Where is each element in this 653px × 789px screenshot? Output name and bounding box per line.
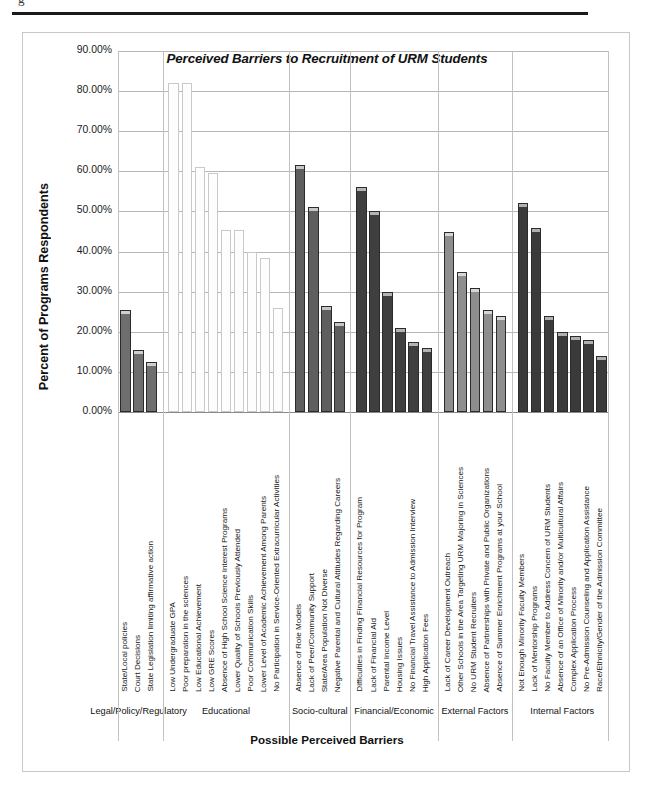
x-axis-category-label: No Participation in Service-Oriented Ext… — [273, 475, 281, 692]
y-axis-tick-label: 10.00% — [38, 365, 112, 376]
page-top-crop: g — [0, 0, 653, 12]
x-axis-category-label: Housing Issues — [396, 637, 404, 692]
x-axis-category-label: Absence of Summer Enrichment Programs at… — [496, 484, 504, 692]
x-axis-category-label: Lack of Financial Aid — [370, 618, 378, 692]
x-axis-category-label: Low Undergraduate GPA — [169, 602, 177, 692]
x-axis-category-label: Absence of Role Models — [295, 604, 303, 692]
y-axis-tick-label: 40.00% — [38, 245, 112, 256]
y-axis-tick-label: 20.00% — [38, 325, 112, 336]
x-axis-category-labels: State/Local policiesCourt DecisionsState… — [119, 414, 609, 692]
y-axis-tick-label: 80.00% — [38, 84, 112, 95]
x-axis-category-label: Poor Communication Skills — [247, 595, 255, 692]
x-axis-category-label: Lower Quality of Schools Previously Atte… — [234, 529, 242, 692]
x-axis-category-label: No URM Student Recruiters — [470, 592, 478, 692]
x-axis-category-label: Not Enough Minority Faculty Members — [518, 554, 526, 692]
x-axis-category-label: Absence of High School Science Interest … — [221, 508, 229, 692]
x-axis-category-label: Low GRE Scores — [208, 630, 216, 692]
x-axis-category-label: Absence of an Office of Minority and/or … — [557, 482, 565, 692]
y-axis-tick-label: 70.00% — [38, 124, 112, 135]
x-axis-category-label: Complex Application Process — [570, 587, 578, 692]
chart-container: Perceived Barriers to Recruitment of URM… — [22, 32, 630, 772]
y-axis-tick-label: 60.00% — [38, 164, 112, 175]
x-axis-category-label: Low Educational Achievement — [195, 584, 203, 692]
x-axis-category-label: Court Decisions — [134, 635, 142, 692]
x-axis-category-label: Lack of Career Development Outreach — [444, 553, 452, 692]
x-axis-category-label: State Legislation limiting affirmative a… — [147, 541, 155, 692]
x-axis-category-label: No Pre-Admission Counseling and Applicat… — [583, 486, 591, 692]
x-axis-category-label: State/Area Population Not Diverse — [321, 569, 329, 692]
y-axis-tick-label: 30.00% — [38, 285, 112, 296]
x-axis-category-label: Other Schools in the Area Targeting URM … — [457, 467, 465, 692]
x-axis-category-label: State/Local policies — [121, 622, 129, 692]
x-axis-category-label: No Financial Travel Assistance to Admiss… — [409, 499, 417, 692]
x-axis-category-label: No Faculty Member to Address Concern of … — [544, 484, 552, 692]
x-axis-category-label: Negative Parental and Cultural Attitudes… — [334, 478, 342, 692]
x-axis-category-label: Absence of Partnerships with Private and… — [483, 468, 491, 693]
x-axis-category-label: Poor preparation in the sciences — [182, 576, 190, 692]
y-axis-tick-label: 50.00% — [38, 204, 112, 215]
x-axis-category-label: Lack of Peer/Community Support — [308, 573, 316, 692]
x-axis-category-label: Race/Ethnicity/Gender of the Admission C… — [596, 508, 604, 692]
x-axis-category-label: Parental Income Level — [383, 611, 391, 692]
x-axis-category-label: High Application Fees — [422, 614, 430, 692]
y-axis-tick-label: 90.00% — [38, 44, 112, 55]
y-axis-tick-label: 0.00% — [38, 405, 112, 416]
x-axis-category-label: Difficulties in Finding Financial Resour… — [356, 497, 364, 692]
group-label: Internal Factors — [487, 706, 638, 716]
horizontal-rule — [12, 12, 588, 15]
x-axis-title: Possible Perceived Barriers — [23, 733, 631, 746]
x-axis-category-label: Lower Level of Academic Achievement Amon… — [260, 496, 268, 692]
x-axis-category-label: Lack of Mentorship Programs — [531, 586, 539, 692]
cropped-text-glyph: g — [18, 0, 25, 7]
